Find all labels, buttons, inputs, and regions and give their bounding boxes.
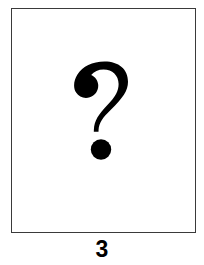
figure-plate-frame bbox=[11, 8, 196, 233]
question-mark-icon bbox=[74, 61, 136, 161]
figure-panel: 3 bbox=[0, 0, 204, 265]
figure-caption-number: 3 bbox=[0, 236, 204, 262]
figure-plate-content bbox=[12, 9, 195, 232]
